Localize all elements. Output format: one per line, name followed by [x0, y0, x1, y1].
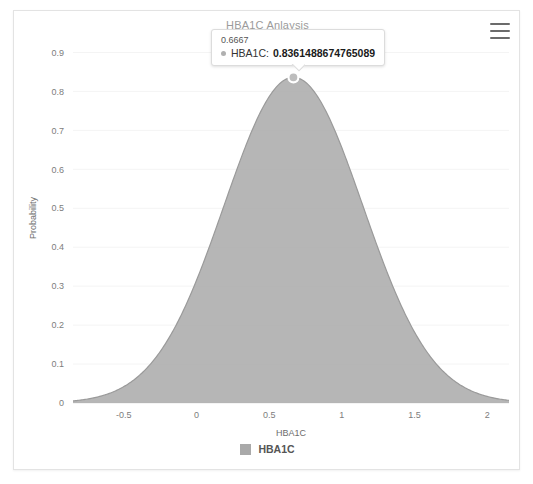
x-tick-label: 0: [194, 410, 199, 420]
y-tick-label: 0.8: [51, 87, 64, 97]
tooltip-series-name: HBA1C:: [231, 47, 269, 59]
y-tick-label: 0.6: [51, 165, 64, 175]
y-tick-label: 0: [59, 398, 64, 408]
tooltip-x-value: 0.6667: [221, 35, 375, 45]
tooltip-arrow-icon: [291, 64, 305, 72]
x-tick-label: 1.5: [408, 410, 421, 420]
y-tick-label: 0.3: [51, 281, 64, 291]
density-chart-svg[interactable]: 00.10.20.30.40.50.60.70.80.9-0.500.511.5…: [14, 11, 521, 471]
x-tick-label: 0.5: [263, 410, 276, 420]
y-tick-label: 0.5: [51, 203, 64, 213]
plot-area: 00.10.20.30.40.50.60.70.80.9-0.500.511.5…: [14, 11, 521, 471]
y-tick-label: 0.4: [51, 242, 64, 252]
tooltip-series-row: HBA1C: 0.8361488674765089: [221, 47, 375, 59]
x-tick-label: 1: [339, 410, 344, 420]
legend-swatch-hba1c[interactable]: [240, 444, 251, 455]
y-tick-label: 0.2: [51, 320, 64, 330]
y-tick-label: 0.9: [51, 48, 64, 58]
x-tick-label: 2: [485, 410, 490, 420]
series-area-hba1c[interactable]: [73, 77, 509, 403]
y-tick-label: 0.7: [51, 126, 64, 136]
y-axis-title: Probability: [28, 196, 38, 239]
series-dot-icon: [221, 51, 226, 56]
chart-legend: HBA1C: [14, 443, 521, 455]
y-tick-label: 0.1: [51, 359, 64, 369]
highlighted-data-point[interactable]: [288, 72, 298, 82]
chart-card: HBA1C Anlaysis 00.10.20.30.40.50.60.70.8…: [13, 10, 520, 470]
tooltip-series-value: 0.8361488674765089: [273, 47, 375, 59]
x-axis-title: HBA1C: [276, 428, 307, 438]
legend-label-hba1c[interactable]: HBA1C: [258, 443, 294, 455]
chart-tooltip: 0.6667 HBA1C: 0.8361488674765089: [211, 29, 385, 66]
x-tick-label: -0.5: [116, 410, 132, 420]
